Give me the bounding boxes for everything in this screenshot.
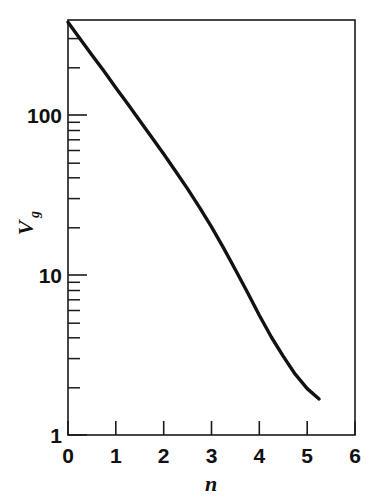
x-tick-label-3: 3 xyxy=(206,444,218,467)
x-axis-title: n xyxy=(205,471,217,496)
chart-figure: 100 10 1 0 1 2 3 4 5 6 n V g xyxy=(0,0,379,498)
x-tick-label-5: 5 xyxy=(301,444,313,467)
x-tick-label-4: 4 xyxy=(253,444,265,467)
y-axis-title-text: V xyxy=(13,218,38,235)
x-major-ticks xyxy=(68,421,355,435)
x-tick-labels: 0 1 2 3 4 5 6 xyxy=(62,444,361,467)
y-tick-labels: 100 10 1 xyxy=(27,104,62,447)
data-series-group xyxy=(68,22,319,399)
y-axis-title: V g xyxy=(13,211,42,235)
x-tick-label-2: 2 xyxy=(158,444,170,467)
x-tick-label-0: 0 xyxy=(62,444,74,467)
y-axis-title-subscript: g xyxy=(27,211,42,219)
chart-svg: 100 10 1 0 1 2 3 4 5 6 n V g xyxy=(0,0,379,498)
x-tick-label-6: 6 xyxy=(349,444,361,467)
y-tick-label-10: 10 xyxy=(39,264,62,287)
y-minor-ticks xyxy=(68,39,80,388)
x-axis-title-text: n xyxy=(205,471,217,496)
series-line-vg xyxy=(68,22,319,399)
y-tick-label-100: 100 xyxy=(27,104,62,127)
x-tick-label-1: 1 xyxy=(110,444,122,467)
y-tick-label-1: 1 xyxy=(50,424,62,447)
